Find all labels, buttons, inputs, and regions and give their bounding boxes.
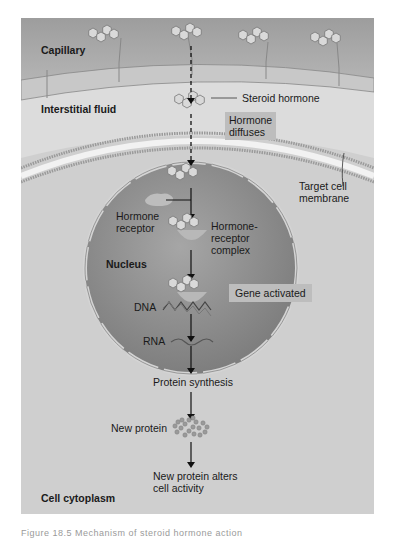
label-hormone-diffuses: Hormone diffuses	[225, 112, 276, 140]
steroid-hormone-diagram: Capillary Interstitial fluid Steroid hor…	[21, 18, 374, 514]
region-label-interstitial: Interstitial fluid	[41, 103, 116, 115]
label-rna: RNA	[143, 335, 165, 347]
label-steroid-hormone: Steroid hormone	[242, 92, 320, 104]
region-label-nucleus: Nucleus	[106, 258, 147, 270]
label-hormone-receptor-complex: Hormone- receptor complex	[211, 220, 258, 256]
region-label-capillary: Capillary	[41, 44, 85, 56]
label-new-protein: New protein	[111, 422, 167, 434]
label-protein-synthesis: Protein synthesis	[153, 376, 233, 388]
diagram-artwork	[21, 18, 374, 514]
label-target-cell-membrane: Target cell membrane	[299, 180, 349, 204]
figure-caption: Figure 18.5 Mechanism of steroid hormone…	[21, 528, 243, 538]
label-hormone-receptor: Hormone receptor	[116, 210, 159, 234]
label-dna: DNA	[134, 301, 156, 313]
region-label-cytoplasm: Cell cytoplasm	[41, 492, 115, 504]
label-new-protein-alters: New protein alters cell activity	[153, 470, 238, 494]
label-gene-activated: Gene activated	[229, 284, 312, 302]
